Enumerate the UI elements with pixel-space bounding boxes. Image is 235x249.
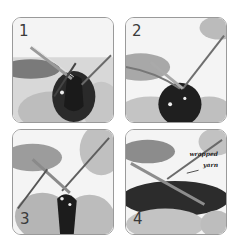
step-4-photo: wrapped yarn 4 — [125, 129, 227, 235]
step-3-photo: 3 — [12, 129, 114, 235]
step-2-photo: 2 — [125, 17, 227, 123]
step-1-photo: 1 — [12, 17, 114, 123]
step-number: 4 — [133, 212, 143, 227]
annotation-line-2: yarn — [180, 159, 218, 170]
step-number: 3 — [20, 212, 30, 227]
step-number: 1 — [19, 24, 29, 39]
step-number: 2 — [132, 24, 142, 39]
annotation-line-1: wrapped — [180, 148, 218, 159]
wrapped-yarn-annotation: wrapped yarn — [180, 148, 218, 171]
